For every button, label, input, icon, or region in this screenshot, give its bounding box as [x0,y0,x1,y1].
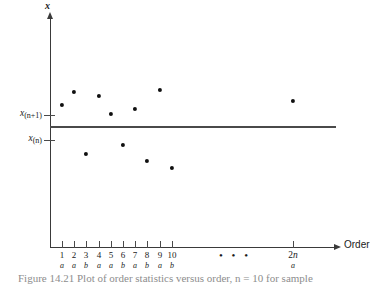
x-tick-9 [160,241,161,248]
y-tick-label-lower: x(n) [4,133,42,145]
x-tick-label-3: 3 [84,250,89,260]
y-tick-upper [44,115,55,116]
x-tick-7 [135,241,136,248]
x-tick-4 [99,241,100,248]
x-tick-sublabel-4: a [97,261,101,270]
y-axis-arrow-icon [47,12,53,19]
x-tick-label-2n: 2n [288,250,298,260]
x-tick-sublabel-10: b [170,261,174,270]
x-tick-sublabel-7: a [133,261,137,270]
x-tick-sublabel-6: b [121,261,125,270]
x-tick-label-6: 6 [121,250,126,260]
data-point-3 [84,152,88,156]
data-point-9 [158,88,162,92]
x-tick-label-1: 1 [60,250,65,260]
x-tick-2n [293,241,294,248]
data-point-2n [291,99,295,103]
x-tick-label-2: 2 [72,250,77,260]
y-tick-lower-subscript: (n) [33,136,42,145]
data-point-10 [170,166,174,170]
x-tick-label-5: 5 [109,250,114,260]
y-tick-label-upper: x(n+1) [4,108,42,120]
figure-caption: Figure 14.21 Plot of order statistics ve… [18,272,362,284]
x-tick-sublabel-1: a [60,261,64,270]
x-tick-label-10: 10 [168,250,177,260]
data-point-8 [145,159,149,163]
data-point-7 [133,107,137,111]
x-tick-10 [172,241,173,248]
x-tick-2 [74,241,75,248]
x-tick-1 [62,241,63,248]
x-axis-ellipsis: • • • [219,249,251,261]
data-point-2 [72,90,76,94]
x-axis-label: Order [344,239,370,250]
data-point-5 [109,112,113,116]
x-tick-8 [147,241,148,248]
x-tick-label-8: 8 [145,250,150,260]
x-axis-arrow-icon [334,244,341,250]
y-tick-upper-subscript: (n+1) [24,111,42,120]
data-point-1 [60,103,64,107]
x-tick-label-7: 7 [133,250,138,260]
x-tick-label-9: 9 [158,250,163,260]
data-point-4 [97,94,101,98]
x-tick-sublabel-9: a [158,261,162,270]
x-tick-sublabel-2n: a [291,261,295,270]
x-tick-sublabel-3: b [84,261,88,270]
x-tick-label-4: 4 [97,250,102,260]
x-tick-sublabel-5: a [109,261,113,270]
x-tick-sublabel-8: b [145,261,149,270]
threshold-line [50,126,336,128]
y-axis-label: x [45,0,50,11]
x-tick-5 [111,241,112,248]
y-axis-line [50,18,51,248]
x-tick-sublabel-2: a [72,261,76,270]
data-point-6 [121,143,125,147]
x-tick-3 [86,241,87,248]
x-tick-6 [123,241,124,248]
y-tick-lower [44,140,55,141]
